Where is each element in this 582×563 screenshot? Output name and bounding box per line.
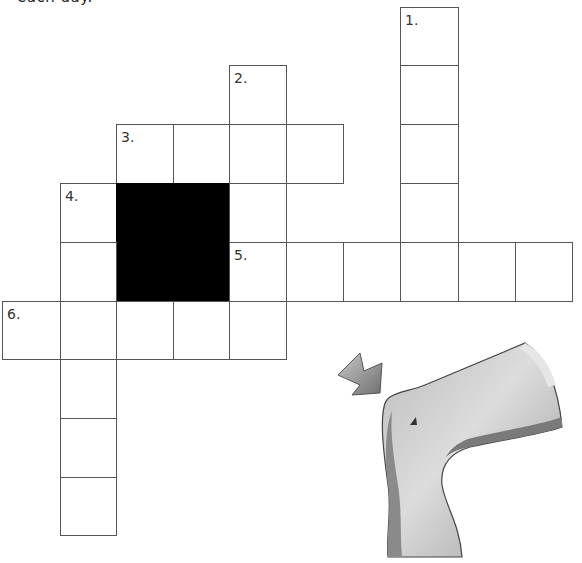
- crossword-cell-5-3[interactable]: [343, 242, 401, 302]
- crossword-cell-4-6[interactable]: [60, 477, 117, 536]
- crossword-cell-5-6[interactable]: [515, 242, 573, 302]
- crossword-cell-2-1[interactable]: 2.: [229, 65, 287, 125]
- crossword-cell-4-4[interactable]: [60, 359, 117, 419]
- crossword-cell-6-3[interactable]: [116, 301, 174, 360]
- clue-number-5: 5.: [234, 247, 247, 263]
- crossword-cell-1-2[interactable]: [400, 65, 459, 125]
- crossword-cell-6-5[interactable]: [229, 301, 287, 360]
- crossword-cell-6-2[interactable]: [60, 301, 117, 360]
- blocked-cell: [116, 183, 230, 301]
- crossword-cell-3-3[interactable]: [229, 124, 287, 184]
- clue-number-3: 3.: [121, 129, 134, 145]
- clue-number-1: 1.: [405, 12, 418, 28]
- crossword-cell-6-4[interactable]: [173, 301, 230, 360]
- crossword-cell-1-4[interactable]: [400, 183, 459, 243]
- clue-number-2: 2.: [234, 70, 247, 86]
- crossword-cell-4-2[interactable]: [60, 242, 117, 302]
- instruction-text: each day.: [17, 0, 93, 6]
- crossword-cell-5-5[interactable]: [458, 242, 516, 302]
- crossword-cell-3-4[interactable]: [286, 124, 344, 184]
- dinosaur-illustration: [330, 335, 582, 563]
- crossword-cell-4-1[interactable]: 4.: [60, 183, 117, 243]
- crossword-cell-1-1[interactable]: 1.: [400, 7, 459, 66]
- crossword-cell-5-4[interactable]: [400, 242, 459, 302]
- crossword-cell-5-2[interactable]: [286, 242, 344, 302]
- crossword-cell-6-1[interactable]: 6.: [2, 301, 61, 360]
- crossword-cell-3-2[interactable]: [173, 124, 230, 184]
- arrow-icon: [338, 353, 382, 395]
- crossword-cell-2-3[interactable]: [229, 183, 287, 243]
- crossword-cell-1-3[interactable]: [400, 124, 459, 184]
- clue-number-4: 4.: [65, 188, 78, 204]
- clue-number-6: 6.: [7, 306, 20, 322]
- crossword-cell-5-1[interactable]: 5.: [229, 242, 287, 302]
- crossword-cell-4-5[interactable]: [60, 418, 117, 478]
- crossword-cell-3-1[interactable]: 3.: [116, 124, 174, 184]
